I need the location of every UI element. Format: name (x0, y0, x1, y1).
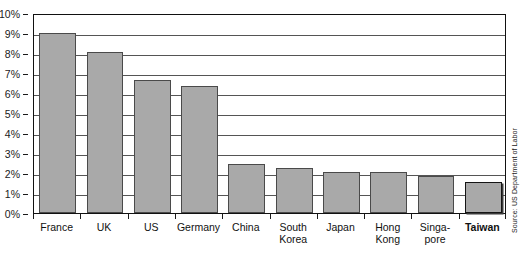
x-tick-mark (222, 214, 223, 219)
y-tick-mark (23, 54, 28, 55)
bar-france[interactable] (39, 33, 76, 213)
x-tick-mark (80, 214, 81, 219)
x-tick-mark (364, 214, 365, 219)
top-cropped-text-artifact (0, 0, 531, 5)
x-axis-label-taiwan: Taiwan (459, 221, 506, 233)
x-axis-label-japan: Japan (317, 221, 364, 233)
y-tick-mark (23, 114, 28, 115)
x-axis-label-hongkong: Hong Kong (364, 221, 411, 245)
x-axis-label-southkorea: South Korea (270, 221, 317, 245)
x-tick-mark (175, 214, 176, 219)
y-tick-mark (23, 214, 28, 215)
bar-china[interactable] (228, 164, 265, 213)
y-tick-label: 2% (5, 169, 20, 179)
bars-group (34, 15, 505, 213)
source-note: Source: US Department of Labor (511, 128, 518, 233)
y-tick-label: 1% (5, 189, 20, 199)
y-axis: 0%1%2%3%4%5%6%7%8%9%10% (0, 0, 28, 257)
x-axis-label-uk: UK (80, 221, 127, 233)
y-tick-label: 5% (5, 109, 20, 119)
x-axis-label-france: France (33, 221, 80, 233)
bar-uk[interactable] (87, 52, 124, 213)
y-tick-label: 10% (0, 9, 20, 19)
y-tick-mark (23, 154, 28, 155)
x-tick-mark (317, 214, 318, 219)
bar-hongkong[interactable] (370, 172, 407, 213)
y-tick-mark (23, 74, 28, 75)
x-tick-mark (270, 214, 271, 219)
y-tick-mark (23, 134, 28, 135)
x-axis-ticks (33, 214, 506, 220)
x-axis-label-china: China (222, 221, 269, 233)
bar-germany[interactable] (181, 86, 218, 213)
x-tick-mark (411, 214, 412, 219)
bar-japan[interactable] (323, 172, 360, 213)
x-axis-label-singa-pore: Singa- pore (411, 221, 458, 245)
y-tick-label: 0% (5, 209, 20, 219)
y-tick-label: 6% (5, 89, 20, 99)
x-tick-mark (33, 214, 34, 219)
y-tick-label: 4% (5, 129, 20, 139)
y-tick-mark (23, 14, 28, 15)
plot-area (33, 14, 506, 214)
y-tick-mark (23, 194, 28, 195)
x-axis-labels: FranceUKUSGermanyChinaSouth KoreaJapanHo… (33, 221, 506, 257)
y-tick-mark (23, 34, 28, 35)
bar-us[interactable] (134, 80, 171, 213)
x-axis-label-germany: Germany (175, 221, 222, 233)
y-tick-mark (23, 94, 28, 95)
bar-taiwan[interactable] (465, 182, 502, 213)
y-tick-label: 8% (5, 49, 20, 59)
y-tick-mark (23, 174, 28, 175)
x-tick-mark (505, 214, 506, 219)
y-tick-label: 7% (5, 69, 20, 79)
bar-southkorea[interactable] (276, 168, 313, 213)
bar-chart: 0%1%2%3%4%5%6%7%8%9%10% FranceUKUSGerman… (0, 0, 531, 257)
x-axis-label-us: US (128, 221, 175, 233)
bar-singa-pore[interactable] (418, 176, 455, 213)
x-tick-mark (128, 214, 129, 219)
x-tick-mark (459, 214, 460, 219)
y-tick-label: 3% (5, 149, 20, 159)
y-tick-label: 9% (5, 29, 20, 39)
